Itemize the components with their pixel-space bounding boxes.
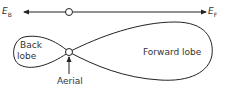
forward-lobe-label: Forward lobe: [143, 48, 201, 57]
aerial-marker: [66, 49, 73, 56]
back-lobe-label-line2: lobe: [17, 52, 36, 61]
axis-origin-marker: [66, 9, 73, 16]
axis-label-left: EB: [2, 7, 12, 18]
back-lobe-label-line1: Back: [20, 41, 42, 50]
radiation-pattern-diagram: EB EF Back lobe Forward lobe Aerial: [0, 0, 226, 97]
aerial-label: Aerial: [57, 77, 83, 86]
axis-label-right: EF: [208, 7, 217, 18]
